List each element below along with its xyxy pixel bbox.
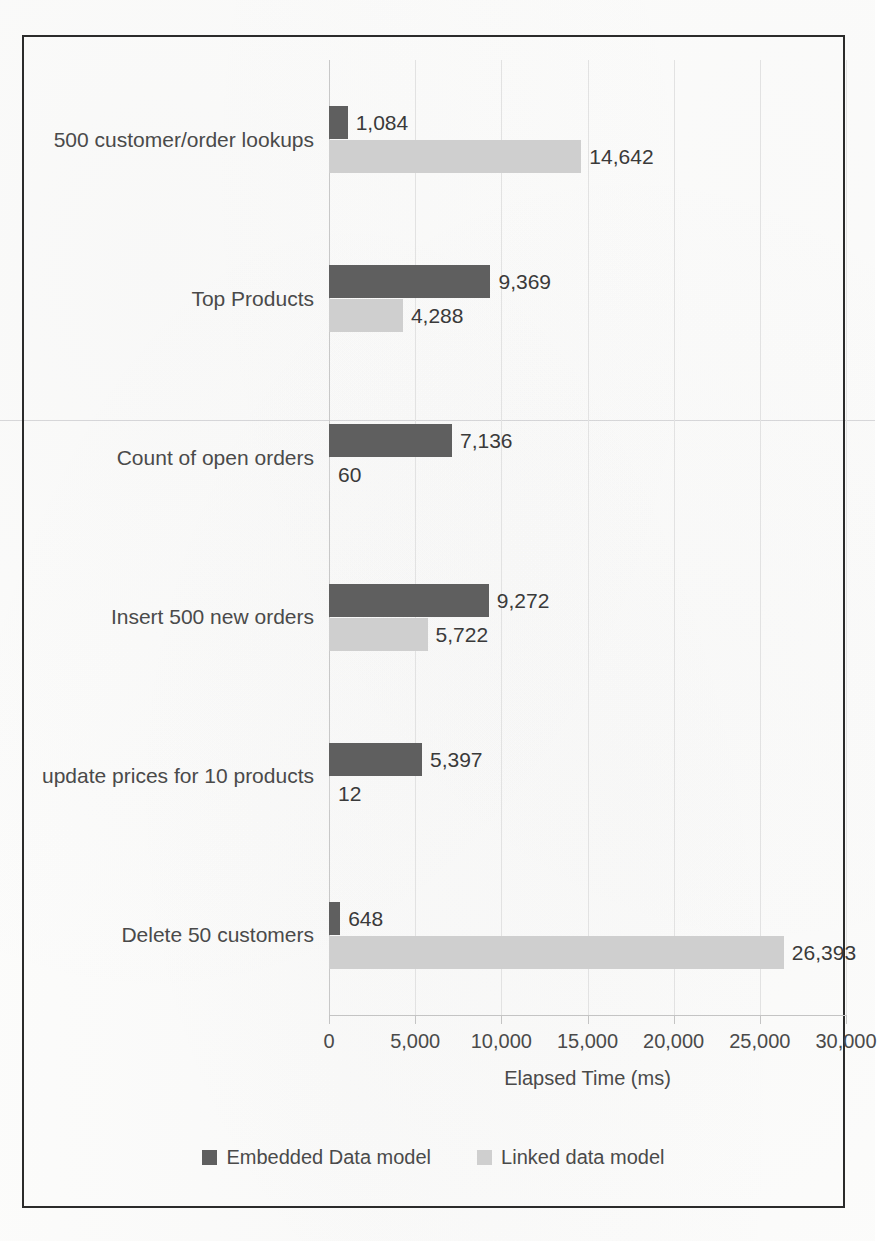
x-axis-tick [846, 1015, 847, 1024]
x-axis-tick [415, 1015, 416, 1024]
gridline [760, 60, 761, 1015]
plot-inner: 500 customer/order lookups1,08414,642Top… [329, 60, 846, 1015]
x-axis-tick [329, 1015, 330, 1024]
bar-linked [329, 140, 581, 173]
gridline [846, 60, 847, 1015]
bar-value-label: 9,369 [498, 271, 551, 292]
bar-linked [329, 299, 403, 332]
bar-linked [329, 936, 784, 969]
bar-value-label: 60 [338, 464, 361, 485]
category-label: 500 customer/order lookups [54, 129, 314, 150]
legend-item[interactable]: Linked data model [477, 1147, 664, 1167]
bar-value-label: 7,136 [460, 430, 513, 451]
bar-linked [329, 618, 428, 651]
category-label: Count of open orders [117, 447, 314, 468]
x-axis-tick-label: 15,000 [557, 1031, 618, 1051]
x-axis-tick [760, 1015, 761, 1024]
bar-embedded [329, 743, 422, 776]
category-label: Delete 50 customers [121, 924, 314, 945]
gridline [501, 60, 502, 1015]
bar-value-label: 26,393 [792, 942, 856, 963]
gridline [588, 60, 589, 1015]
bar-value-label: 12 [338, 783, 361, 804]
x-axis-title: Elapsed Time (ms) [329, 1067, 846, 1090]
x-axis-tick-label: 10,000 [471, 1031, 532, 1051]
bar-embedded [329, 424, 452, 457]
bar-linked [329, 777, 330, 810]
x-axis-tick [674, 1015, 675, 1024]
plot-area: 500 customer/order lookups1,08414,642Top… [329, 60, 846, 1015]
bar-value-label: 4,288 [411, 305, 464, 326]
bar-embedded [329, 106, 348, 139]
x-axis-tick-label: 25,000 [729, 1031, 790, 1051]
bar-value-label: 648 [348, 908, 383, 929]
legend-item[interactable]: Embedded Data model [202, 1147, 431, 1167]
legend-label: Embedded Data model [226, 1147, 431, 1167]
bar-group: Top Products9,3694,288 [329, 265, 846, 332]
bar-group: Insert 500 new orders9,2725,722 [329, 584, 846, 651]
category-label: Top Products [191, 288, 314, 309]
bar-embedded [329, 265, 490, 298]
x-axis-tick-label: 20,000 [643, 1031, 704, 1051]
bar-embedded [329, 584, 489, 617]
bar-value-label: 1,084 [356, 112, 409, 133]
legend-swatch-icon [477, 1150, 492, 1165]
legend-label: Linked data model [501, 1147, 664, 1167]
x-axis-tick [501, 1015, 502, 1024]
x-axis-tick-label: 0 [323, 1031, 334, 1051]
chart-frame: 500 customer/order lookups1,08414,642Top… [22, 35, 845, 1208]
bar-group: Count of open orders7,13660 [329, 424, 846, 491]
bar-group: update prices for 10 products5,39712 [329, 743, 846, 810]
bar-value-label: 14,642 [589, 146, 653, 167]
x-axis-tick-label: 30,000 [815, 1031, 876, 1051]
bar-group: 500 customer/order lookups1,08414,642 [329, 106, 846, 173]
bar-linked [329, 458, 330, 491]
bar-group: Delete 50 customers64826,393 [329, 902, 846, 969]
gridline [329, 60, 330, 1015]
gridline [415, 60, 416, 1015]
x-axis-tick-label: 5,000 [390, 1031, 440, 1051]
x-axis-tick [588, 1015, 589, 1024]
chart-legend: Embedded Data modelLinked data model [24, 1147, 843, 1167]
bar-embedded [329, 902, 340, 935]
bar-value-label: 9,272 [497, 590, 550, 611]
category-label: update prices for 10 products [42, 765, 314, 786]
bar-value-label: 5,397 [430, 749, 483, 770]
category-label: Insert 500 new orders [111, 606, 314, 627]
gridline [674, 60, 675, 1015]
legend-swatch-icon [202, 1150, 217, 1165]
bar-value-label: 5,722 [436, 624, 489, 645]
